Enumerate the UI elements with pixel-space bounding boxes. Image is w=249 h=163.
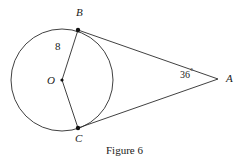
- point-label-C: C: [75, 133, 82, 144]
- figure-caption: Figure 6: [0, 144, 249, 156]
- point-label-B: B: [76, 7, 83, 18]
- degree-symbol-icon: °: [190, 67, 193, 76]
- point-label-O: O: [47, 75, 55, 86]
- angle-value: 36: [180, 69, 190, 80]
- figure-container: B O C A 8 36° Figure 6: [0, 0, 249, 163]
- segment-OB: [62, 30, 78, 80]
- point-marker-O: [60, 78, 63, 81]
- segment-OC: [62, 80, 78, 128]
- segment-BA: [78, 30, 218, 79]
- point-marker-C: [76, 126, 80, 130]
- angle-measure-label: 36°: [180, 70, 193, 80]
- geometry-diagram: [0, 0, 249, 163]
- segment-CA: [78, 79, 218, 128]
- radius-length-label: 8: [55, 41, 61, 52]
- point-marker-B: [76, 28, 80, 32]
- point-label-A: A: [226, 73, 233, 84]
